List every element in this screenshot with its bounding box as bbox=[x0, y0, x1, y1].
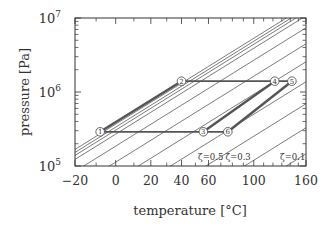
x-tick-label: 0 bbox=[112, 173, 120, 188]
y-tick-label: 106 bbox=[39, 83, 62, 100]
cycle-segment bbox=[100, 81, 181, 132]
isostere-line bbox=[65, 10, 316, 166]
state-point-3: 3 bbox=[199, 127, 208, 136]
y-tick-label: 105 bbox=[39, 157, 62, 174]
isostere-line bbox=[65, 22, 316, 178]
svg-text:6: 6 bbox=[226, 128, 231, 136]
svg-text:3: 3 bbox=[201, 128, 205, 136]
x-tick-label: 100 bbox=[242, 173, 266, 188]
plot-frame bbox=[75, 18, 306, 166]
chart: −200204060100160 105106107 123456 ζ=0.5ζ… bbox=[0, 0, 329, 232]
y-tick-label: 107 bbox=[39, 9, 62, 26]
x-tick-label: 60 bbox=[201, 173, 217, 188]
zeta-label: ζ=0.3 bbox=[226, 152, 251, 162]
x-tick-label: 20 bbox=[143, 173, 159, 188]
svg-text:5: 5 bbox=[290, 78, 294, 86]
x-tick-label: −20 bbox=[62, 173, 88, 188]
state-point-5: 5 bbox=[288, 77, 297, 86]
zeta-label: ζ=0.1 bbox=[280, 152, 305, 162]
isostere-line bbox=[65, 148, 316, 232]
state-point-1: 1 bbox=[96, 127, 105, 136]
y-axis-label: pressure [Pa] bbox=[17, 48, 32, 136]
svg-text:2: 2 bbox=[179, 78, 183, 86]
x-axis-label: temperature [°C] bbox=[133, 203, 246, 218]
svg-text:1: 1 bbox=[98, 128, 102, 136]
svg-text:4: 4 bbox=[273, 78, 278, 86]
zeta-label: ζ=0.5 bbox=[198, 152, 223, 162]
isostere-line bbox=[65, 38, 316, 194]
isostere-lines bbox=[65, 0, 316, 232]
cycle-path bbox=[100, 81, 292, 132]
x-axis-ticks: −200204060100160 bbox=[62, 18, 318, 188]
x-tick-label: 160 bbox=[294, 173, 318, 188]
isostere-labels: ζ=0.5ζ=0.3ζ=0.1 bbox=[198, 152, 305, 162]
state-point-6: 6 bbox=[224, 127, 233, 136]
state-point-4: 4 bbox=[270, 77, 279, 86]
x-tick-label: 40 bbox=[174, 173, 190, 188]
state-point-2: 2 bbox=[177, 77, 186, 86]
